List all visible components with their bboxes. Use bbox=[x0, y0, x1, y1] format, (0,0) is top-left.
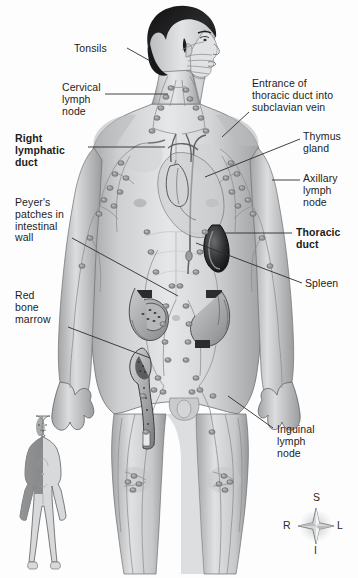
label-peyers-patches: Peyer's patches in intestinal wall bbox=[15, 197, 64, 244]
label-cervical-lymph-node: Cervical lymph node bbox=[62, 82, 101, 117]
compass-left-label: L bbox=[337, 519, 343, 531]
label-thoracic-duct: Thoracic duct bbox=[296, 227, 341, 251]
compass-superior-label: S bbox=[313, 491, 320, 503]
lymphatic-system-figure: TonsilsCervical lymph nodeRight lymphati… bbox=[0, 0, 358, 578]
label-tonsils: Tonsils bbox=[74, 43, 107, 55]
label-entrance-thoracic-duct: Entrance of thoracic duct into subclavia… bbox=[252, 78, 333, 113]
label-inguinal-lymph-node: Inguinal lymph node bbox=[277, 424, 315, 459]
compass-right-label: R bbox=[283, 519, 291, 531]
label-axillary-lymph-node: Axillary lymph node bbox=[303, 173, 338, 208]
compass-inferior-label: I bbox=[314, 544, 317, 556]
label-red-bone-marrow: Red bone marrow bbox=[15, 290, 51, 325]
label-thymus-gland: Thymus gland bbox=[303, 131, 341, 155]
label-right-lymphatic-duct: Right lymphatic duct bbox=[15, 133, 65, 168]
label-spleen: Spleen bbox=[305, 278, 338, 290]
